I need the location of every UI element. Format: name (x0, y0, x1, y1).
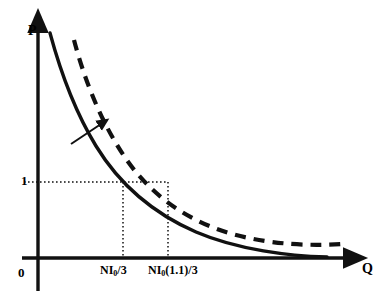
shifted-demand-curve (74, 40, 341, 245)
x-tick-base: NI (148, 263, 161, 277)
x-tick-label-original-quantity: NI0/3 (100, 264, 127, 276)
origin-label: 0 (18, 266, 25, 279)
x-tick-tail: (1.1)/3 (165, 263, 197, 277)
chart-canvas (0, 0, 386, 308)
y-tick-label-1: 1 (21, 174, 28, 187)
quantity-axis-label: Q (362, 262, 373, 276)
x-tick-subscript: 0 (113, 269, 117, 278)
price-axis-label: P (28, 24, 37, 38)
x-tick-tail: /3 (117, 263, 126, 277)
x-tick-label-shifted-quantity: NI0(1.1)/3 (148, 264, 198, 276)
x-tick-base: NI (100, 263, 113, 277)
x-tick-subscript: 0 (161, 269, 165, 278)
original-demand-curve (50, 33, 327, 257)
demand-shift-chart: P Q 0 1 NI0/3 NI0(1.1)/3 (0, 0, 386, 308)
